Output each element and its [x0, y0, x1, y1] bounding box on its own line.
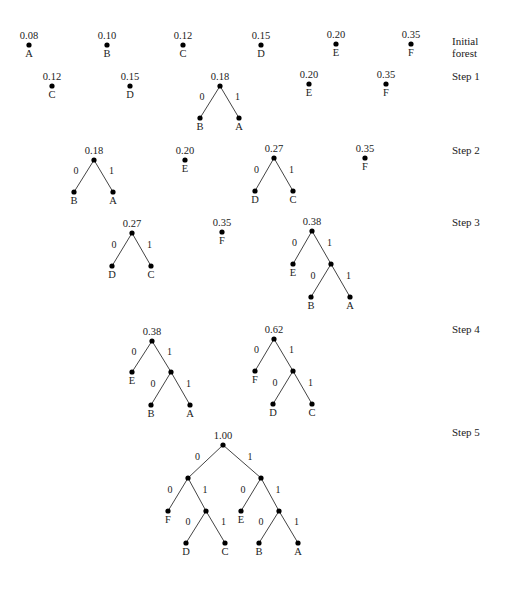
tree-node-dot [127, 83, 132, 88]
edge-bit-label: 0 [186, 516, 191, 527]
node-symbol-label: D [257, 48, 265, 59]
step-label-line1: Step 2 [452, 144, 480, 156]
node-symbol-label: B [103, 48, 110, 59]
edge-bit-label: 1 [294, 516, 299, 527]
node-symbol-label: A [109, 195, 117, 206]
tree-step-5: 1.00FDCEBA [165, 430, 302, 557]
node-symbol-label: F [165, 514, 171, 525]
edges-layer: 010101010101010101010101010101 [74, 86, 352, 543]
node-symbol-label: F [252, 374, 258, 385]
tree-node-dot [236, 115, 241, 120]
tree-node-dot [270, 401, 275, 406]
node-symbol-label: A [25, 48, 33, 59]
edge-bit-label: 1 [109, 165, 114, 176]
node-weight-label: 0.12 [43, 71, 61, 82]
edge-bit-label: 1 [203, 484, 208, 495]
edge-bit-label: 0 [254, 164, 259, 175]
tree-node-dot [71, 189, 76, 194]
step-label-line2: forest [452, 47, 478, 59]
tree-node-dot [347, 294, 352, 299]
node-weight-label: 0.15 [252, 30, 270, 41]
node-weight-label: 0.18 [211, 71, 229, 82]
tree-node-dot [109, 263, 114, 268]
node-symbol-label: E [238, 514, 244, 525]
edge-bit-label: 0 [259, 516, 264, 527]
tree-node-dot [220, 442, 225, 447]
node-symbol-label: C [48, 89, 55, 100]
node-weight-label: 0.27 [123, 218, 141, 229]
node-weight-label: 0.08 [20, 30, 38, 41]
node-weight-label: 0.18 [85, 145, 103, 156]
node-symbol-label: E [333, 47, 339, 58]
node-weight-label: 0.35 [402, 29, 420, 40]
tree-node-dot [149, 338, 154, 343]
tree-node-dot [168, 369, 173, 374]
tree-initial-forest: 0.08A0.10B0.12C0.15D0.20E0.35F [20, 29, 420, 59]
edge-bit-label: 0 [112, 239, 117, 250]
node-symbol-label: D [108, 269, 116, 280]
tree-edge [188, 445, 223, 478]
edge-bit-label: 1 [308, 377, 313, 388]
tree-node-dot [271, 155, 276, 160]
tree-node-dot [252, 188, 257, 193]
edge-bit-label: 1 [221, 516, 226, 527]
edge-bit-label: 1 [289, 164, 294, 175]
tree-node-dot [203, 508, 208, 513]
node-weight-label: 0.27 [265, 143, 283, 154]
tree-node-dot [256, 540, 261, 545]
edge-bit-label: 0 [132, 346, 137, 357]
tree-node-dot [110, 189, 115, 194]
tree-node-dot [238, 508, 243, 513]
tree-node-dot [217, 83, 222, 88]
edge-bit-label: 1 [248, 451, 253, 462]
node-symbol-label: A [186, 408, 194, 419]
tree-node-dot [252, 368, 257, 373]
step-label-line1: Initial [452, 35, 478, 47]
node-weight-label: 0.62 [265, 324, 283, 335]
edge-bit-label: 1 [346, 270, 351, 281]
tree-node-dot [183, 540, 188, 545]
edge-bit-label: 1 [327, 237, 332, 248]
edge-bit-label: 0 [168, 484, 173, 495]
tree-node-dot [408, 41, 413, 46]
node-weight-label: 0.35 [213, 217, 231, 228]
node-symbol-label: D [126, 89, 134, 100]
tree-step-2: 0.18BA0.20E0.27DC0.35F [70, 143, 374, 206]
tree-node-dot [306, 81, 311, 86]
edge-bit-label: 1 [276, 484, 281, 495]
node-symbol-label: D [251, 194, 259, 205]
tree-node-dot [295, 540, 300, 545]
node-symbol-label: E [306, 87, 312, 98]
tree-node-dot [328, 261, 333, 266]
node-symbol-label: C [308, 407, 315, 418]
node-symbol-label: B [147, 408, 154, 419]
tree-node-dot [362, 155, 367, 160]
tree-node-dot [290, 368, 295, 373]
node-symbol-label: A [294, 546, 302, 557]
edge-bit-label: 1 [186, 378, 191, 389]
tree-node-dot [148, 402, 153, 407]
edge-bit-label: 1 [235, 91, 240, 102]
tree-node-dot [383, 81, 388, 86]
step-label-line1: Step 5 [452, 426, 480, 438]
edge-bit-label: 1 [147, 239, 152, 250]
tree-node-dot [290, 188, 295, 193]
edge-bit-label: 0 [151, 378, 156, 389]
step-label: Step 2 [452, 144, 480, 156]
node-symbol-label: D [269, 407, 277, 418]
node-symbol-label: B [255, 546, 262, 557]
tree-node-dot [258, 42, 263, 47]
tree-node-dot [148, 263, 153, 268]
tree-node-dot [258, 475, 263, 480]
edge-bit-label: 0 [292, 237, 297, 248]
tree-node-dot [129, 369, 134, 374]
node-symbol-label: C [147, 269, 154, 280]
step-label: Step 1 [452, 70, 480, 82]
node-weight-label: 0.38 [143, 326, 161, 337]
edge-bit-label: 0 [254, 344, 259, 355]
node-symbol-label: F [383, 87, 389, 98]
edge-bit-label: 0 [311, 270, 316, 281]
edge-bit-label: 1 [167, 346, 172, 357]
edge-bit-label: 0 [241, 484, 246, 495]
tree-node-dot [308, 294, 313, 299]
